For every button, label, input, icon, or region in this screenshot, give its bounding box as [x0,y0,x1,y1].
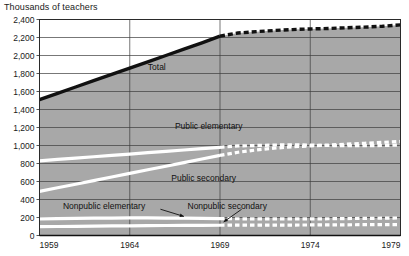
y-tick-label: 1,400 [13,105,35,115]
series-line-nonpublic-elementary [40,218,221,219]
chart-plot-area: 02004006008001,0001,2001,4001,6001,8002,… [0,0,409,256]
series-line-nonpublic-secondary [40,225,221,226]
series-label: Public elementary [175,121,243,131]
y-tick-label: 400 [20,195,34,205]
x-axis-tick-labels: 19591964196919741979 [40,240,401,250]
x-tick-label: 1974 [301,240,320,250]
x-tick-label: 1964 [120,240,139,250]
y-tick-label: 600 [20,177,34,187]
y-tick-label: 2,200 [13,33,35,43]
y-tick-label: 1,800 [13,69,35,79]
y-tick-label: 1,000 [13,141,35,151]
teachers-line-chart: Thousands of teachers 02004006008001,000… [0,0,409,256]
series-label: Total [148,62,166,72]
y-axis-tick-labels: 02004006008001,0001,2001,4001,6001,8002,… [13,15,39,241]
y-tick-label: 1,200 [13,123,35,133]
y-tick-label: 0 [30,231,35,241]
x-tick-label: 1969 [211,240,230,250]
x-tick-label: 1959 [40,240,59,250]
y-tick-label: 1,600 [13,87,35,97]
series-label: Nonpublic secondary [188,201,268,211]
y-tick-label: 200 [20,213,34,223]
x-tick-label: 1979 [382,240,401,250]
series-label: Public secondary [171,173,236,183]
series-label: Nonpublic elementary [63,201,146,211]
y-tick-label: 2,400 [13,15,35,25]
y-tick-label: 800 [20,159,34,169]
y-tick-label: 2,000 [13,51,35,61]
